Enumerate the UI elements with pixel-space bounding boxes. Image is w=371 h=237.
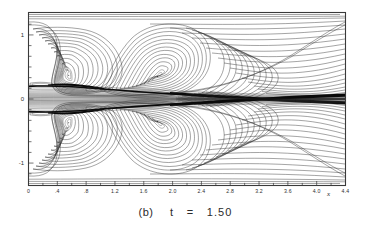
x-tick-label: 3.6: [284, 188, 292, 194]
x-axis-label: x: [326, 190, 331, 198]
caption-equals: =: [187, 206, 195, 218]
x-tick-label: 0: [27, 188, 30, 194]
x-axis-tick-labels: 0.4.81.21.62.02.42.83.23.64.04.4: [27, 188, 349, 194]
upper-half-contours: [29, 15, 346, 107]
x-tick-label: 3.2: [255, 188, 263, 194]
x-tick-label: 2.4: [198, 188, 206, 194]
lower-half-contours: [29, 92, 346, 184]
x-tick-label: 1.2: [111, 188, 119, 194]
y-axis-tick-labels: 10-1: [19, 32, 25, 166]
x-tick-label: 4.0: [313, 188, 321, 194]
caption-value: 1.50: [207, 206, 233, 218]
x-tick-label: .8: [84, 188, 89, 194]
x-tick-label: 1.6: [140, 188, 148, 194]
x-tick-label: 4.4: [342, 188, 350, 194]
x-tick-label: 2.8: [226, 188, 234, 194]
contour-plot-svg: 0.4.81.21.62.02.42.83.23.64.04.4 10-1 x: [0, 0, 371, 237]
y-axis-ticks: [29, 24, 34, 174]
x-tick-label: 2.0: [169, 188, 177, 194]
caption-variable: t: [170, 206, 174, 218]
contour-figure: 0.4.81.21.62.02.42.83.23.64.04.4 10-1 x …: [0, 0, 371, 237]
contour-field: [29, 15, 346, 184]
y-tick-label: 0: [21, 96, 25, 102]
figure-caption: (b) t = 1.50: [0, 206, 371, 218]
y-tick-label: 1: [21, 32, 25, 38]
x-tick-label: .4: [55, 188, 60, 194]
caption-label: (b): [138, 206, 153, 218]
y-tick-label: -1: [19, 160, 25, 166]
